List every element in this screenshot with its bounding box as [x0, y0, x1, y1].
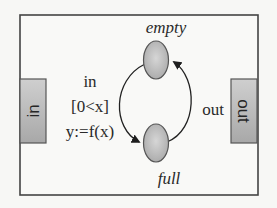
transition-in-event: in [83, 72, 97, 91]
port-out[interactable]: out [231, 79, 257, 143]
transition-out-label: out [202, 100, 224, 119]
port-out-label: out [234, 99, 253, 123]
transition-in-action: y:=f(x) [66, 122, 114, 141]
port-in-label: in [24, 104, 43, 117]
state-empty-label: empty [146, 18, 187, 37]
state-empty-node[interactable] [144, 41, 169, 79]
transition-in-guard: [0<x] [71, 97, 109, 116]
port-in[interactable]: in [20, 79, 46, 143]
state-full-node[interactable] [144, 124, 169, 162]
diagram-canvas: in out empty full in [0<x] y:=f(x) out [0, 0, 277, 208]
state-full-label: full [158, 169, 181, 188]
state-machine-diagram: in out empty full in [0<x] y:=f(x) out [0, 0, 277, 208]
